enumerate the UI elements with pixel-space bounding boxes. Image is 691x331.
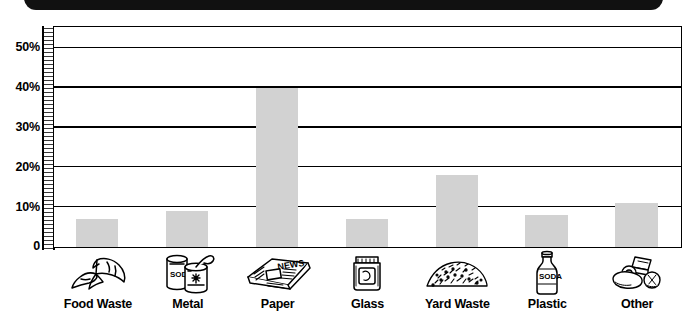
y-axis-minor-tick [42, 96, 53, 97]
y-axis-minor-tick [42, 132, 53, 133]
x-axis-category: SODA Plastic [502, 250, 592, 311]
y-axis-minor-tick [42, 116, 53, 117]
y-axis-minor-tick [42, 164, 53, 165]
x-axis-tick-label: Other [621, 297, 653, 311]
y-axis-minor-tick [42, 196, 53, 197]
bar [76, 219, 118, 247]
y-axis-minor-tick [42, 100, 53, 101]
mixed-trash-icon [605, 250, 669, 296]
y-axis-minor-tick [42, 60, 53, 61]
y-axis-minor-tick [42, 80, 53, 81]
y-axis-tick-label: 50% [0, 40, 40, 54]
y-axis-minor-tick [42, 124, 53, 125]
x-axis-category: Food Waste [53, 250, 143, 311]
y-axis-tick-label: 20% [0, 160, 40, 174]
banana-peel-icon [67, 250, 129, 296]
svg-text:SODA: SODA [539, 272, 562, 281]
y-axis-minor-tick [42, 192, 53, 193]
waste-composition-bar-chart: 010%20%30%40%50% Food Waste SOD Metal NE… [0, 20, 691, 331]
y-axis-minor-tick [42, 144, 53, 145]
bar [256, 88, 298, 247]
y-axis-tick-label: 40% [0, 80, 40, 94]
y-axis-minor-tick [42, 88, 53, 89]
y-axis: 010%20%30%40%50% [0, 20, 40, 258]
y-axis-tick-label: 10% [0, 200, 40, 214]
y-axis-minor-tick [42, 172, 53, 173]
bar [346, 219, 388, 247]
y-axis-minor-tick [42, 176, 53, 177]
y-axis-minor-tick [42, 84, 53, 85]
y-axis-minor-tick [42, 204, 53, 205]
y-axis-minor-tick [42, 236, 53, 237]
y-axis-minor-tick [42, 136, 53, 137]
soda-cans-icon: SOD [157, 250, 219, 296]
y-axis-outer-rule [42, 26, 44, 250]
y-axis-minor-tick [42, 108, 53, 109]
bar [166, 211, 208, 247]
y-axis-minor-tick [42, 212, 53, 213]
bar [436, 175, 478, 247]
y-axis-minor-tick [42, 68, 53, 69]
y-axis-minor-tick [42, 32, 53, 33]
y-axis-minor-tick [42, 160, 53, 161]
y-axis-minor-tick [42, 28, 53, 29]
x-axis-tick-label: Glass [351, 297, 384, 311]
x-axis-tick-label: Metal [172, 297, 203, 311]
y-axis-minor-tick [42, 168, 53, 169]
y-axis-minor-tick [42, 216, 53, 217]
plot-area [53, 26, 682, 248]
y-axis-minor-tick [42, 200, 53, 201]
y-axis-minor-tick [42, 52, 53, 53]
y-axis-minor-tick [42, 148, 53, 149]
y-axis-minor-tick [42, 112, 53, 113]
y-axis-minor-tick [42, 220, 53, 221]
grass-clippings-icon [421, 250, 493, 296]
y-axis-minor-tick [42, 180, 53, 181]
y-axis-minor-tick [42, 244, 53, 245]
x-axis: Food Waste SOD Metal NEWS Paper Glass [53, 250, 682, 330]
y-axis-minor-tick [42, 248, 53, 249]
x-axis-category: SOD Metal [143, 250, 233, 311]
y-axis-minor-tick [42, 76, 53, 77]
glass-jar-icon [343, 250, 391, 296]
x-axis-tick-label: Plastic [528, 297, 567, 311]
y-axis-tick-label: 0 [0, 239, 40, 253]
y-axis-minor-tick [42, 36, 53, 37]
bar [615, 203, 657, 247]
y-axis-minor-tick [42, 208, 53, 209]
y-axis-minor-tick [42, 104, 53, 105]
y-axis-minor-tick [42, 40, 53, 41]
y-axis-minor-tick [42, 120, 53, 121]
y-axis-minor-tick [42, 140, 53, 141]
y-axis-minor-tick [42, 156, 53, 157]
x-axis-category: Other [592, 250, 682, 311]
y-axis-minor-tick [42, 48, 53, 49]
top-black-band [24, 0, 663, 10]
y-axis-minor-tick [42, 240, 53, 241]
y-axis-minor-tick [42, 92, 53, 93]
bars [54, 27, 681, 247]
y-axis-minor-tick [42, 56, 53, 57]
bar [525, 215, 567, 247]
y-axis-minor-tick [42, 64, 53, 65]
y-axis-minor-tick [42, 44, 53, 45]
plastic-bottle-icon: SODA [527, 250, 567, 296]
x-axis-category: NEWS Paper [233, 250, 323, 311]
x-axis-tick-label: Paper [261, 297, 295, 311]
y-axis-minor-ticks [42, 28, 53, 248]
y-axis-tick-label: 30% [0, 120, 40, 134]
x-axis-tick-label: Food Waste [64, 297, 132, 311]
y-axis-minor-tick [42, 72, 53, 73]
newspaper-icon: NEWS [242, 250, 314, 296]
y-axis-minor-tick [42, 228, 53, 229]
y-axis-minor-tick [42, 188, 53, 189]
y-axis-minor-tick [42, 184, 53, 185]
x-axis-tick-label: Yard Waste [425, 297, 490, 311]
y-axis-minor-tick [42, 232, 53, 233]
x-axis-category: Glass [323, 250, 413, 311]
y-axis-minor-tick [42, 152, 53, 153]
x-axis-category: Yard Waste [412, 250, 502, 311]
y-axis-minor-tick [42, 224, 53, 225]
y-axis-minor-tick [42, 128, 53, 129]
